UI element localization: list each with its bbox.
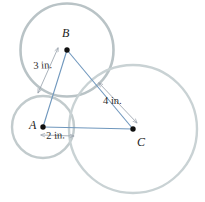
geometry-figure: A B C 3 in. 2 in. 4 in. — [0, 0, 205, 202]
point-label-a: A — [29, 119, 36, 131]
point-a — [40, 124, 45, 129]
dimension-label-2in: 2 in. — [46, 130, 65, 141]
point-b — [64, 47, 69, 52]
point-label-b: B — [62, 27, 69, 39]
dimension-label-4in: 4 in. — [103, 96, 122, 107]
dimension-label-3in: 3 in. — [33, 60, 52, 71]
segment-bc — [67, 50, 133, 129]
point-c — [130, 126, 135, 131]
point-label-c: C — [137, 136, 145, 148]
